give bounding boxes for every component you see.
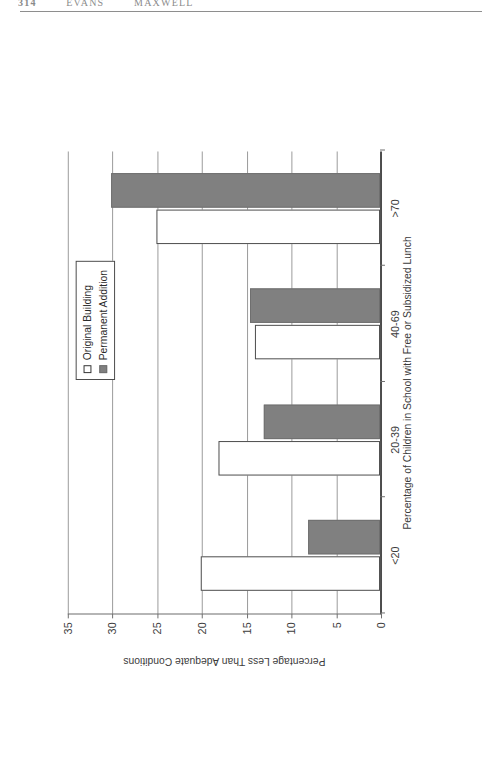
category-label-20: <20 [388, 546, 400, 564]
value-tick-30 [112, 613, 113, 618]
category-axis-title: Percentage of Children in School with Fr… [400, 151, 412, 614]
category-label-40-69: 40-69 [388, 310, 400, 338]
value-axis-title-text: Percentage Less Than Adequate Conditions [123, 655, 325, 667]
bar-permanent-addition[interactable] [308, 519, 380, 554]
value-tick-label-0: 0 [375, 622, 387, 628]
value-tick-0 [381, 613, 382, 618]
category-label-70: >70 [388, 199, 400, 217]
category-tick [380, 149, 385, 150]
chart-area: Percentage Less Than Adequate Conditions… [53, 84, 447, 675]
legend-item-label: Permanent Addition [97, 270, 109, 360]
value-tick-label-35: 35 [61, 622, 73, 634]
value-tick-label-15: 15 [240, 622, 252, 634]
bar-permanent-addition[interactable] [111, 172, 379, 207]
value-tick-35 [67, 613, 68, 618]
white-square-outline-icon [83, 365, 91, 373]
value-tick-label-25: 25 [151, 622, 163, 634]
bar-chart: Percentage Less Than Adequate Conditions… [53, 84, 447, 675]
bar-group [67, 150, 379, 266]
legend-item[interactable]: Original Building [81, 270, 93, 373]
legend-item[interactable]: Permanent Addition [97, 270, 109, 373]
value-tick-label-30: 30 [106, 622, 118, 634]
category-tick [380, 265, 385, 266]
chart-legend: Original BuildingPermanent Addition [75, 261, 114, 380]
category-tick [380, 496, 385, 497]
gray-filled-square-icon [99, 365, 107, 373]
bar-original-building[interactable] [156, 209, 380, 244]
value-tick-15 [246, 613, 247, 618]
bar-original-building[interactable] [201, 556, 380, 591]
value-tick-label-5: 5 [330, 622, 342, 628]
category-tick [380, 380, 385, 381]
value-tick-25 [157, 613, 158, 618]
category-label-20-39: 20-39 [388, 425, 400, 453]
value-tick-5 [336, 613, 337, 618]
bar-permanent-addition[interactable] [250, 288, 380, 323]
bar-group [67, 381, 379, 497]
bar-original-building[interactable] [218, 440, 379, 475]
bar-group [67, 497, 379, 613]
value-tick-10 [291, 613, 292, 618]
bar-permanent-addition[interactable] [263, 404, 379, 439]
chart-rotation-stage: Percentage Less Than Adequate Conditions… [0, 0, 501, 759]
plot-area: 05101520253035<2020-3940-69>70 [67, 151, 380, 614]
bar-original-building[interactable] [254, 324, 379, 359]
value-axis-title: Percentage Less Than Adequate Conditions [67, 653, 380, 669]
legend-item-label: Original Building [81, 284, 93, 359]
value-tick-label-20: 20 [196, 622, 208, 634]
value-tick-label-10: 10 [285, 622, 297, 634]
category-tick-origin [380, 612, 385, 613]
value-tick-20 [202, 613, 203, 618]
